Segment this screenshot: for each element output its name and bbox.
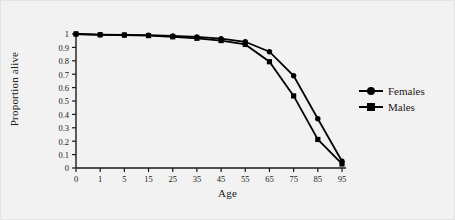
y-axis-title: Proportion alive	[8, 29, 20, 149]
y-tick-label: 0.7	[58, 70, 69, 80]
x-tick-label: 95	[338, 174, 347, 184]
data-point-males	[122, 32, 127, 37]
data-point-males	[194, 36, 199, 41]
y-tick-label: 0.2	[58, 137, 69, 147]
x-tick-label: 25	[168, 174, 177, 184]
data-point-males	[73, 31, 78, 36]
series-layer	[73, 31, 344, 166]
y-tick-label: 0.3	[58, 123, 69, 133]
data-point-males	[243, 42, 248, 47]
axes-layer: 00.10.20.30.40.50.60.70.80.9101515253545…	[58, 29, 346, 184]
data-point-females	[291, 73, 296, 78]
legend-item-males: Males	[359, 99, 425, 115]
data-point-males	[315, 137, 320, 142]
x-tick-label: 45	[217, 174, 226, 184]
data-point-females	[267, 49, 272, 54]
y-tick-label: 0.1	[58, 150, 69, 160]
x-tick-label: 15	[144, 174, 153, 184]
data-point-females	[315, 116, 320, 121]
legend-marker-circle-icon	[359, 85, 383, 97]
x-axis-title: Age	[1, 187, 454, 199]
legend-label-females: Females	[388, 85, 425, 97]
series-line-males	[76, 34, 342, 164]
y-tick-label: 0.4	[58, 110, 69, 120]
legend-item-females: Females	[359, 83, 425, 99]
y-tick-label: 0.5	[58, 96, 69, 106]
x-tick-label: 85	[314, 174, 323, 184]
x-tick-label: 35	[193, 174, 202, 184]
legend-marker-square-icon	[359, 101, 383, 113]
series-line-females	[76, 34, 342, 161]
x-tick-label: 1	[98, 174, 102, 184]
chart-legend: Females Males	[359, 83, 425, 115]
legend-label-males: Males	[388, 101, 415, 113]
y-tick-label: 1	[65, 29, 69, 39]
data-point-males	[98, 32, 103, 37]
y-tick-label: 0	[65, 163, 69, 173]
y-tick-label: 0.9	[58, 43, 69, 53]
x-tick-label: 55	[241, 174, 250, 184]
x-tick-label: 65	[265, 174, 274, 184]
chart-figure: 00.10.20.30.40.50.60.70.80.9101515253545…	[0, 0, 455, 220]
data-point-males	[339, 161, 344, 166]
x-tick-label: 0	[74, 174, 78, 184]
y-tick-label: 0.6	[58, 83, 69, 93]
data-point-males	[267, 59, 272, 64]
data-point-males	[170, 34, 175, 39]
data-point-males	[218, 38, 223, 43]
data-point-males	[291, 93, 296, 98]
x-tick-label: 75	[289, 174, 298, 184]
y-tick-label: 0.8	[58, 56, 69, 66]
data-point-males	[146, 33, 151, 38]
x-tick-label: 5	[122, 174, 126, 184]
